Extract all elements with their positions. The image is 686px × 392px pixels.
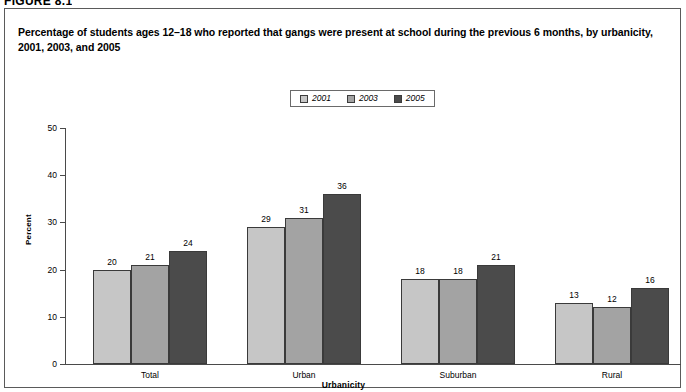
bar-total-2001[interactable]: 20 bbox=[93, 270, 131, 364]
bar-urban-2001[interactable]: 29 bbox=[247, 227, 285, 364]
y-axis-tick bbox=[60, 222, 65, 223]
y-axis-tick-label: 20 bbox=[48, 265, 57, 274]
bar-group-bars: 131216 bbox=[555, 128, 669, 364]
plot-area: 01020304050202124Total293136Urban181821S… bbox=[65, 128, 681, 364]
legend-item-2003[interactable]: 2003 bbox=[347, 94, 378, 103]
bar-value-label: 18 bbox=[415, 267, 424, 276]
bar-value-label: 18 bbox=[453, 267, 462, 276]
bar-suburban-2001[interactable]: 18 bbox=[401, 279, 439, 364]
legend-swatch-2005 bbox=[394, 95, 402, 103]
bar-value-label: 31 bbox=[299, 206, 308, 215]
legend-item-2005[interactable]: 2005 bbox=[394, 94, 425, 103]
bar-value-label: 21 bbox=[491, 253, 500, 262]
y-axis-tick bbox=[60, 364, 65, 365]
x-axis-category-label: Rural bbox=[555, 371, 669, 380]
bar-value-label: 36 bbox=[337, 182, 346, 191]
bar-total-2005[interactable]: 24 bbox=[169, 251, 207, 364]
y-axis-label: Percent bbox=[24, 214, 33, 245]
bar-value-label: 29 bbox=[261, 215, 270, 224]
bar-group-bars: 202124 bbox=[93, 128, 207, 364]
bar-value-label: 13 bbox=[569, 291, 578, 300]
bar-group-rural: 131216Rural bbox=[555, 128, 669, 364]
x-axis-label: Urbanicity bbox=[5, 380, 682, 390]
bar-value-label: 24 bbox=[183, 239, 192, 248]
bar-urban-2003[interactable]: 31 bbox=[285, 218, 323, 364]
legend-label-2001: 2001 bbox=[312, 94, 331, 103]
y-axis-tick-label: 0 bbox=[52, 360, 57, 369]
bar-group-suburban: 181821Suburban bbox=[401, 128, 515, 364]
x-axis-category-label: Suburban bbox=[401, 371, 515, 380]
bar-total-2003[interactable]: 21 bbox=[131, 265, 169, 364]
bar-rural-2001[interactable]: 13 bbox=[555, 303, 593, 364]
bar-group-total: 202124Total bbox=[93, 128, 207, 364]
y-axis-tick-label: 40 bbox=[48, 171, 57, 180]
bar-group-bars: 181821 bbox=[401, 128, 515, 364]
x-axis-category-label: Urban bbox=[247, 371, 361, 380]
figure-title: Percentage of students ages 12–18 who re… bbox=[18, 25, 666, 54]
legend-label-2003: 2003 bbox=[359, 94, 378, 103]
y-axis-tick-label: 30 bbox=[48, 218, 57, 227]
y-axis-line bbox=[65, 128, 66, 364]
legend-swatch-2003 bbox=[347, 95, 355, 103]
bar-value-label: 16 bbox=[645, 276, 654, 285]
bar-group-urban: 293136Urban bbox=[247, 128, 361, 364]
bar-suburban-2005[interactable]: 21 bbox=[477, 265, 515, 364]
legend-swatch-2001 bbox=[300, 95, 308, 103]
bar-group-bars: 293136 bbox=[247, 128, 361, 364]
chart-legend: 200120032005 bbox=[290, 90, 435, 107]
bar-urban-2005[interactable]: 36 bbox=[323, 194, 361, 364]
y-axis-tick bbox=[60, 128, 65, 129]
bar-value-label: 20 bbox=[107, 258, 116, 267]
bar-suburban-2003[interactable]: 18 bbox=[439, 279, 477, 364]
bar-value-label: 12 bbox=[607, 295, 616, 304]
y-axis-tick bbox=[60, 175, 65, 176]
figure-number: FIGURE 8.1 bbox=[4, 0, 72, 6]
y-axis-tick-label: 10 bbox=[48, 312, 57, 321]
bar-value-label: 21 bbox=[145, 253, 154, 262]
x-axis-line bbox=[65, 364, 681, 365]
bar-rural-2003[interactable]: 12 bbox=[593, 307, 631, 364]
y-axis-tick bbox=[60, 317, 65, 318]
y-axis-tick-label: 50 bbox=[48, 124, 57, 133]
bar-rural-2005[interactable]: 16 bbox=[631, 288, 669, 364]
x-axis-category-label: Total bbox=[93, 371, 207, 380]
y-axis-tick bbox=[60, 270, 65, 271]
legend-item-2001[interactable]: 2001 bbox=[300, 94, 331, 103]
figure-frame: Percentage of students ages 12–18 who re… bbox=[4, 8, 681, 388]
legend-label-2005: 2005 bbox=[406, 94, 425, 103]
